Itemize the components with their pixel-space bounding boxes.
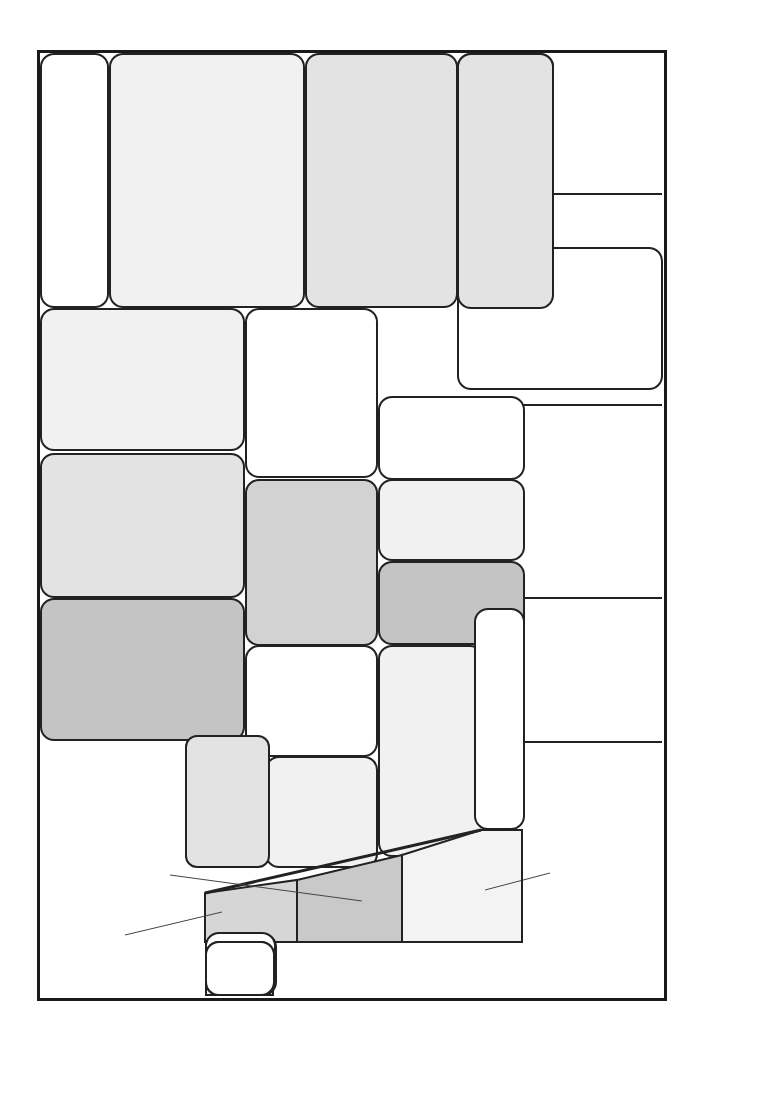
consumer-pdf-regions (0, 0, 769, 1110)
region-pvc-horiz (205, 941, 275, 996)
region-peat-overlay (457, 53, 554, 309)
